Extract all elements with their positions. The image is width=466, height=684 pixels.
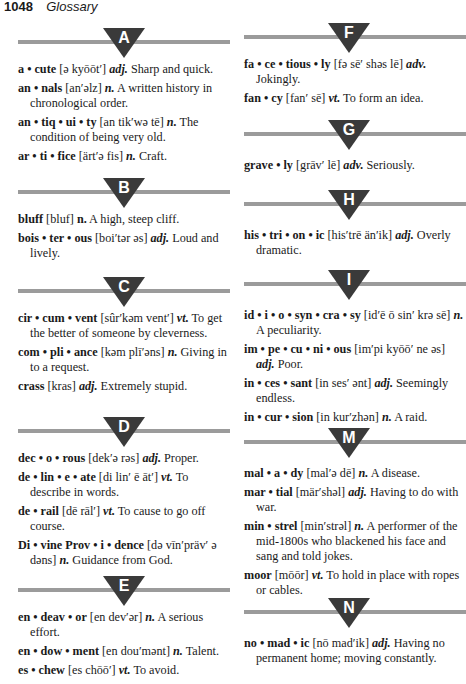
- glossary-entry: an • tiq • ui • ty [an tik′wə tē] n. The…: [18, 115, 230, 145]
- glossary-entry: grave • ly [grāv′ lē] adv. Seriously.: [244, 158, 466, 173]
- section-e: E en • deav • or [en dev′ər] n. A seriou…: [18, 576, 230, 678]
- section-g: G grave • ly [grāv′ lē] adv. Seriously.: [244, 120, 466, 173]
- glossary-entry: im • pe • cu • ni • ous [im′pi kyōō′ ne …: [244, 342, 466, 372]
- glossary-entry: mal • a • dy [mal′ə dē] n. A disease.: [244, 466, 466, 481]
- glossary-entry: es • chew [es chōō′] vt. To avoid.: [18, 663, 230, 678]
- section-letter: B: [103, 179, 145, 197]
- glossary-entry: Di • vine Prov • i • dence [də vīn′präv′…: [18, 538, 230, 568]
- section-letter: F: [328, 24, 370, 42]
- glossary-entry: a • cute [ə kyōōt′] adj. Sharp and quick…: [18, 62, 230, 77]
- glossary-entry: bluff [bluf] n. A high, steep cliff.: [18, 212, 230, 227]
- section-letter: H: [328, 191, 370, 209]
- section-letter: E: [103, 577, 145, 595]
- glossary-entry: cir • cum • vent [sûr′kəm vent′] vt. To …: [18, 311, 230, 341]
- glossary-entry: fa • ce • tious • ly [fə sē′ shəs lē] ad…: [244, 57, 466, 87]
- section-a: A a • cute [ə kyōōt′] adj. Sharp and qui…: [18, 28, 230, 164]
- section-letter: N: [328, 599, 370, 617]
- letter-divider: A: [18, 28, 230, 58]
- glossary-entry: id • i • o • syn • cra • sy [id′ē ō sin′…: [244, 308, 466, 338]
- letter-divider: D: [18, 417, 230, 447]
- glossary-entry: in • ces • sant [in ses′ ənt] adj. Seemi…: [244, 376, 466, 406]
- section-letter: I: [328, 271, 370, 289]
- letter-divider: H: [244, 190, 466, 220]
- glossary-entry: de • lin • e • ate [di lin′ ē āt′] vt. T…: [18, 470, 230, 500]
- letter-divider: I: [244, 270, 466, 300]
- glossary-entry: crass [kras] adj. Extremely stupid.: [18, 379, 230, 394]
- glossary-entry: min • strel [min′strəl] n. A performer o…: [244, 519, 466, 564]
- section-letter: A: [103, 29, 145, 47]
- section-letter: D: [103, 418, 145, 436]
- glossary-entry: com • pli • ance [kəm plī′əns] n. Giving…: [18, 345, 230, 375]
- letter-divider: N: [244, 598, 466, 628]
- page-title: Glossary: [46, 0, 97, 14]
- glossary-entry: en • deav • or [en dev′ər] n. A serious …: [18, 610, 230, 640]
- page-header: 1048 Glossary: [4, 0, 97, 14]
- letter-divider: G: [244, 120, 466, 150]
- glossary-entry: ar • ti • fice [ärt′ə fis] n. Craft.: [18, 149, 230, 164]
- letter-divider: E: [18, 576, 230, 606]
- glossary-entry: moor [mōōr] vt. To hold in place with ro…: [244, 568, 466, 598]
- section-m: M mal • a • dy [mal′ə dē] n. A disease. …: [244, 428, 466, 598]
- section-c: C cir • cum • vent [sûr′kəm vent′] vt. T…: [18, 277, 230, 394]
- glossary-entry: de • rail [dē rāl′] vt. To cause to go o…: [18, 504, 230, 534]
- letter-divider: C: [18, 277, 230, 307]
- section-b: B bluff [bluf] n. A high, steep cliff. b…: [18, 178, 230, 261]
- glossary-entry: in • cur • sion [in kur′zhən] n. A raid.: [244, 410, 466, 425]
- section-n: N no • mad • ic [nō mad′ik] adj. Having …: [244, 598, 466, 666]
- section-f: F fa • ce • tious • ly [fə sē′ shəs lē] …: [244, 23, 466, 106]
- letter-divider: M: [244, 428, 466, 458]
- glossary-entry: mar • tial [mär′shəl] adj. Having to do …: [244, 485, 466, 515]
- section-letter: C: [103, 278, 145, 296]
- section-letter: M: [328, 429, 370, 447]
- glossary-entry: bois • ter • ous [boi′tər əs] adj. Loud …: [18, 231, 230, 261]
- page-number: 1048: [4, 0, 33, 14]
- letter-divider: F: [244, 23, 466, 53]
- glossary-entry: an • nals [an′əlz] n. A written history …: [18, 81, 230, 111]
- glossary-entry: en • dow • ment [en dou′mənt] n. Talent.: [18, 644, 230, 659]
- section-h: H his • tri • on • ic [his′trē än′ik] ad…: [244, 190, 466, 258]
- section-i: I id • i • o • syn • cra • sy [id′ē ō si…: [244, 270, 466, 425]
- section-d: D dec • o • rous [dek′ə rəs] adj. Proper…: [18, 417, 230, 568]
- glossary-entry: fan • cy [fan′ sē] vt. To form an idea.: [244, 91, 466, 106]
- glossary-entry: no • mad • ic [nō mad′ik] adj. Having no…: [244, 636, 466, 666]
- glossary-entry: his • tri • on • ic [his′trē än′ik] adj.…: [244, 228, 466, 258]
- letter-divider: B: [18, 178, 230, 208]
- section-letter: G: [328, 121, 370, 139]
- glossary-entry: dec • o • rous [dek′ə rəs] adj. Proper.: [18, 451, 230, 466]
